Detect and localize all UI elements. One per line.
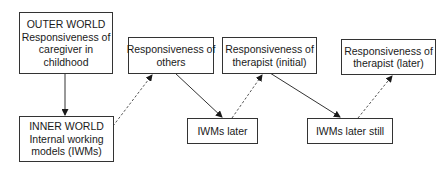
node-therapist-initial-line: Responsiveness of xyxy=(225,43,314,56)
node-responsiveness-of-therapist-initial: Responsiveness of therapist (initial) xyxy=(222,37,317,74)
node-responsiveness-of-others: Responsiveness of others xyxy=(128,37,214,74)
node-inner-world-line: models (IWMs) xyxy=(31,145,102,158)
node-others-line: others xyxy=(156,56,185,69)
node-iwms-later-still-label: IWMs later still xyxy=(316,125,384,138)
node-responsiveness-of-therapist-later: Responsiveness of therapist (later) xyxy=(341,39,436,75)
node-iwms-later-label: IWMs later xyxy=(197,125,247,138)
edge-inner-to-others xyxy=(113,75,152,126)
node-outer-world-line: childhood xyxy=(44,56,89,69)
edge-therapist-initial-to-iwms-later-still xyxy=(270,73,340,117)
edge-iwms-later-to-therapist-initial xyxy=(232,75,262,118)
node-inner-world: INNER WORLD Internal working models (IWM… xyxy=(19,116,114,162)
node-iwms-later-still: IWMs later still xyxy=(307,118,393,144)
node-outer-world-title: OUTER WORLD xyxy=(27,18,106,31)
node-outer-world-line: caregiver in xyxy=(39,43,93,56)
node-therapist-later-line: Responsiveness of xyxy=(344,45,433,58)
node-therapist-later-line: therapist (later) xyxy=(353,57,424,70)
node-outer-world-line: Responsiveness of xyxy=(22,31,111,44)
node-inner-world-title: INNER WORLD xyxy=(29,120,104,133)
node-inner-world-line: Internal working xyxy=(29,133,103,146)
edge-iwms-later-still-to-therapist-later xyxy=(358,76,392,118)
node-therapist-initial-line: therapist (initial) xyxy=(232,56,306,69)
node-outer-world: OUTER WORLD Responsiveness of caregiver … xyxy=(19,12,113,74)
edge-others-to-iwms-later xyxy=(175,73,222,117)
node-iwms-later: IWMs later xyxy=(187,118,258,144)
node-others-line: Responsiveness of xyxy=(127,43,216,56)
